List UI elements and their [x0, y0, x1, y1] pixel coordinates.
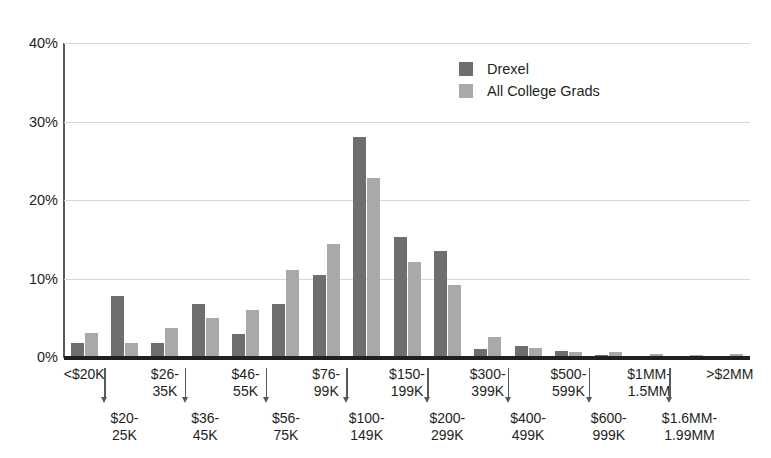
arrow-down-icon	[423, 368, 432, 406]
x-axis-tick-line: >$2MM	[680, 366, 771, 383]
arrow-down-icon	[585, 368, 594, 406]
arrow-head	[182, 397, 188, 403]
arrow-shaft	[589, 368, 590, 399]
legend-label-all-college-grads: All College Grads	[487, 83, 600, 99]
legend-label-drexel: Drexel	[487, 61, 529, 77]
plot-area	[64, 43, 750, 357]
x-axis-tick-labels: <$20K$20-25K$26-35K$36-45K$46-55K$56-75K…	[0, 360, 771, 458]
arrow-shaft	[104, 368, 105, 399]
x-axis-tick: $1.6MM-1.99MM	[639, 410, 739, 444]
arrow-shaft	[346, 368, 347, 399]
arrow-shaft	[508, 368, 509, 399]
bar-drexel	[353, 137, 366, 357]
bar-drexel	[111, 296, 124, 357]
arrow-down-icon	[504, 368, 513, 406]
x-axis-tick: >$2MM	[680, 366, 771, 383]
arrow-head	[263, 397, 269, 403]
bar-drexel	[313, 275, 326, 357]
arrow-shaft	[185, 368, 186, 399]
bar-drexel	[192, 304, 205, 357]
legend-swatch-icon-drexel	[459, 62, 473, 76]
bar-group	[272, 43, 299, 357]
bar-group	[313, 43, 340, 357]
bar-drexel	[434, 251, 447, 357]
bar-group	[353, 43, 380, 357]
arrow-head	[101, 397, 107, 403]
bar-all-college-grads	[125, 343, 138, 357]
bar-all-college-grads	[408, 262, 421, 357]
arrow-head	[666, 397, 672, 403]
chart-legend: Drexel All College Grads	[459, 58, 600, 102]
bar-group	[434, 43, 461, 357]
bar-drexel	[394, 237, 407, 357]
y-axis-tick: 20%	[2, 192, 58, 208]
y-axis-tick: 10%	[2, 271, 58, 287]
bar-all-college-grads	[448, 285, 461, 357]
arrow-down-icon	[342, 368, 351, 406]
bar-drexel	[151, 343, 164, 357]
bar-all-college-grads	[286, 270, 299, 357]
bar-drexel	[232, 334, 245, 357]
arrow-down-icon	[665, 368, 674, 406]
legend-swatch-icon-all-college-grads	[459, 84, 473, 98]
bar-drexel	[71, 343, 84, 357]
bar-all-college-grads	[246, 310, 259, 357]
bar-all-college-grads	[206, 318, 219, 357]
bar-group	[636, 43, 663, 357]
bar-group	[111, 43, 138, 357]
arrow-down-icon	[262, 368, 271, 406]
arrow-head	[343, 397, 349, 403]
bar-group	[394, 43, 421, 357]
arrow-shaft	[427, 368, 428, 399]
x-axis-tick-line: 1.99MM	[639, 427, 739, 444]
x-axis-tick-line: $1.6MM-	[639, 410, 739, 427]
legend-item-all-college-grads: All College Grads	[459, 80, 600, 102]
income-distribution-bar-chart: 0%10%20%30%40% Drexel All College Grads …	[0, 0, 771, 458]
bar-all-college-grads	[488, 337, 501, 357]
bar-group	[716, 43, 743, 357]
bar-all-college-grads	[367, 178, 380, 357]
arrow-down-icon	[181, 368, 190, 406]
bar-group	[676, 43, 703, 357]
bar-all-college-grads	[85, 333, 98, 357]
y-axis-tick: 40%	[2, 35, 58, 51]
legend-item-drexel: Drexel	[459, 58, 600, 80]
bar-group	[232, 43, 259, 357]
bar-drexel	[272, 304, 285, 357]
bar-group	[71, 43, 98, 357]
arrow-shaft	[669, 368, 670, 399]
bar-group	[192, 43, 219, 357]
arrow-head	[586, 397, 592, 403]
arrow-head	[505, 397, 511, 403]
bar-group	[151, 43, 178, 357]
x-axis-tick-line: 1.5MM	[599, 383, 699, 400]
arrow-head	[424, 397, 430, 403]
bar-all-college-grads	[327, 244, 340, 357]
arrow-shaft	[266, 368, 267, 399]
bar-all-college-grads	[165, 328, 178, 357]
y-axis-tick: 30%	[2, 114, 58, 130]
arrow-down-icon	[100, 368, 109, 406]
